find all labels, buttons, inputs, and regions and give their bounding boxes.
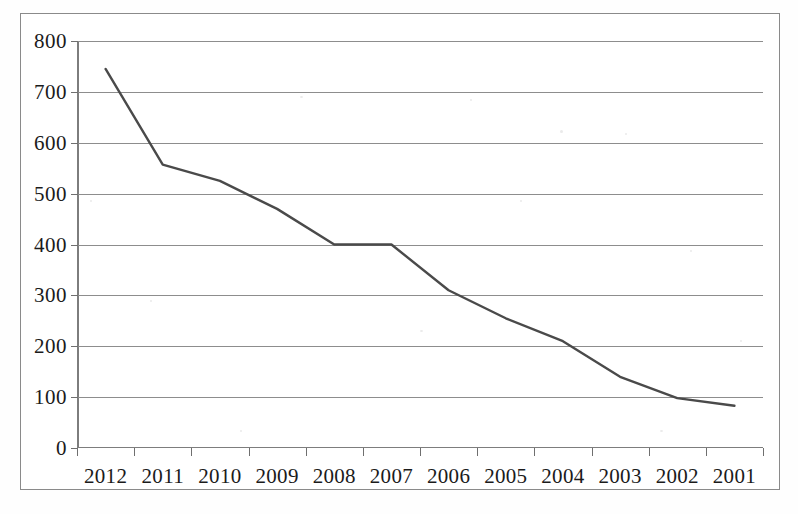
scan-speck xyxy=(625,133,627,135)
x-tick-mark xyxy=(649,448,650,456)
y-tick-label: 800 xyxy=(34,29,67,54)
x-tick-mark xyxy=(363,448,364,456)
y-tick-label: 700 xyxy=(34,79,67,104)
x-tick-label: 2004 xyxy=(541,464,584,489)
x-tick-mark xyxy=(191,448,192,456)
x-tick-label: 2007 xyxy=(370,464,413,489)
scan-speck xyxy=(740,340,742,342)
y-tick-label: 400 xyxy=(34,232,67,257)
x-tick-mark xyxy=(249,448,250,456)
x-tick-label: 2001 xyxy=(713,464,756,489)
x-tick-mark xyxy=(592,448,593,456)
x-tick-label: 2003 xyxy=(598,464,641,489)
y-tick-label: 200 xyxy=(34,334,67,359)
x-tick-mark xyxy=(420,448,421,456)
scan-speck xyxy=(150,300,152,302)
scan-speck xyxy=(470,99,472,101)
scan-speck xyxy=(90,200,92,202)
scan-speck xyxy=(560,130,563,133)
scan-speck xyxy=(420,330,423,332)
x-tick-mark xyxy=(306,448,307,456)
plot-area: 8007006005004003002001000 20122011201020… xyxy=(77,41,763,448)
x-tick-mark xyxy=(477,448,478,456)
x-tick-label: 2010 xyxy=(198,464,241,489)
scan-speck xyxy=(240,430,242,432)
x-tick-mark xyxy=(134,448,135,456)
y-tick-label: 600 xyxy=(34,130,67,155)
scan-speck xyxy=(300,96,303,98)
y-tick-label: 500 xyxy=(34,181,67,206)
y-tick-label: 300 xyxy=(34,283,67,308)
chart-outer-frame: 8007006005004003002001000 20122011201020… xyxy=(20,13,780,490)
data-line xyxy=(106,69,735,406)
x-tick-label: 2005 xyxy=(484,464,527,489)
x-tick-mark xyxy=(706,448,707,456)
x-tick-label: 2011 xyxy=(142,464,184,489)
x-tick-label: 2006 xyxy=(427,464,470,489)
x-tick-mark xyxy=(534,448,535,456)
x-tick-label: 2002 xyxy=(656,464,699,489)
x-tick-label: 2008 xyxy=(313,464,356,489)
line-series-svg xyxy=(77,41,763,448)
x-tick-label: 2009 xyxy=(255,464,298,489)
x-tick-mark xyxy=(77,448,78,456)
scan-speck xyxy=(520,200,522,202)
figure-root: 8007006005004003002001000 20122011201020… xyxy=(0,0,798,514)
x-tick-mark xyxy=(763,448,764,456)
scan-speck xyxy=(690,250,692,252)
x-tick-label: 2012 xyxy=(84,464,127,489)
y-tick-label: 0 xyxy=(56,436,67,461)
y-tick-label: 100 xyxy=(34,385,67,410)
scan-speck xyxy=(660,430,663,432)
